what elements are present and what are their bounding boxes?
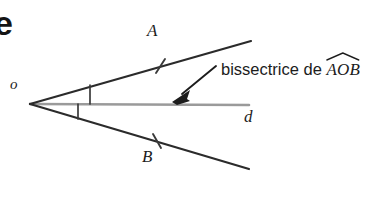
angle-arc-icon bbox=[326, 52, 360, 61]
vertex-label-o: o bbox=[10, 77, 18, 92]
callout-arrow-shaft bbox=[182, 66, 216, 94]
geometry-figure: e o A B d bissectrice de AOB bbox=[0, 0, 379, 204]
angle-name-aob: AOB bbox=[326, 59, 360, 78]
diagram-canvas bbox=[0, 0, 379, 204]
angle-name-text: AOB bbox=[326, 60, 360, 79]
line-label-d: d bbox=[244, 108, 253, 125]
title-fragment-text: e bbox=[0, 6, 12, 40]
bisector-annotation-prefix: bissectrice de bbox=[221, 60, 326, 78]
ray-ob bbox=[30, 104, 249, 169]
point-label-a: A bbox=[147, 22, 157, 39]
bisector-annotation: bissectrice de AOB bbox=[221, 59, 360, 78]
bisector-line bbox=[30, 104, 249, 105]
point-label-b: B bbox=[142, 148, 152, 165]
callout-arrow-head bbox=[172, 90, 190, 105]
ray-oa bbox=[30, 41, 251, 104]
